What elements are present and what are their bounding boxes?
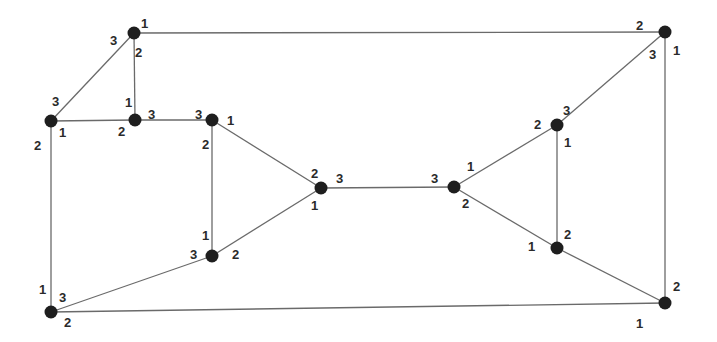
- port-label-K-1: 1: [202, 228, 209, 243]
- edge-I-J: [557, 248, 665, 303]
- node-D: [206, 114, 219, 127]
- port-label-B-1: 1: [59, 125, 66, 140]
- port-label-G-2: 2: [534, 117, 541, 132]
- port-label-J-2: 2: [673, 279, 680, 294]
- port-label-D-2: 2: [202, 137, 209, 152]
- port-label-L-1: 1: [39, 282, 46, 297]
- port-label-B-2: 2: [34, 138, 41, 153]
- port-label-G-1: 1: [564, 135, 571, 150]
- edge-A-H: [134, 32, 665, 33]
- port-label-I-1: 1: [528, 239, 535, 254]
- node-E: [315, 182, 328, 195]
- edge-F-G: [454, 125, 557, 187]
- port-label-H-2: 2: [636, 18, 643, 33]
- edge-G-H: [557, 32, 665, 125]
- graph-diagram: 1323121323122313122312312121132132: [0, 0, 717, 342]
- port-label-H-3: 3: [649, 47, 656, 62]
- edge-F-I: [454, 187, 557, 248]
- nodes-layer: [45, 26, 672, 319]
- port-label-A-1: 1: [141, 16, 148, 31]
- edges-layer: [51, 32, 665, 312]
- port-label-F-1: 1: [467, 159, 474, 174]
- port-label-K-3: 3: [190, 247, 197, 262]
- node-H: [659, 26, 672, 39]
- port-label-F-3: 3: [431, 171, 438, 186]
- port-label-C-2: 2: [118, 124, 125, 139]
- node-C: [129, 114, 142, 127]
- port-label-A-3: 3: [110, 33, 117, 48]
- port-label-E-1: 1: [311, 198, 318, 213]
- port-label-L-3: 3: [59, 290, 66, 305]
- edge-E-F: [321, 187, 454, 188]
- edge-D-E: [212, 120, 321, 188]
- edge-L-J: [51, 303, 665, 312]
- node-L: [45, 306, 58, 319]
- port-label-C-1: 1: [125, 95, 132, 110]
- node-J: [659, 297, 672, 310]
- port-label-A-2: 2: [135, 45, 142, 60]
- edge-K-E: [212, 188, 321, 256]
- port-label-D-3: 3: [195, 107, 202, 122]
- port-label-B-3: 3: [52, 94, 59, 109]
- node-A: [128, 27, 141, 40]
- port-label-K-2: 2: [232, 247, 239, 262]
- node-K: [206, 250, 219, 263]
- port-label-E-2: 2: [311, 166, 318, 181]
- edge-A-B: [51, 33, 134, 121]
- node-B: [45, 115, 58, 128]
- edge-B-C: [51, 120, 135, 121]
- port-label-H-1: 1: [673, 43, 680, 58]
- node-I: [551, 242, 564, 255]
- port-label-G-3: 3: [563, 103, 570, 118]
- port-label-I-2: 2: [564, 227, 571, 242]
- port-label-C-3: 3: [148, 107, 155, 122]
- port-label-F-2: 2: [462, 196, 469, 211]
- port-label-J-1: 1: [636, 316, 643, 331]
- edge-K-L: [51, 256, 212, 312]
- node-G: [551, 119, 564, 132]
- port-label-E-3: 3: [336, 171, 343, 186]
- node-F: [448, 181, 461, 194]
- port-label-D-1: 1: [227, 113, 234, 128]
- port-label-L-2: 2: [64, 315, 71, 330]
